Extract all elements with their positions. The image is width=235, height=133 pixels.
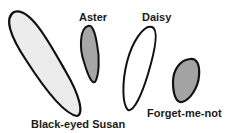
daisy-shape (123, 27, 155, 110)
black-eyed-susan-shape (9, 11, 80, 116)
forget-me-not-shape (173, 59, 199, 102)
aster-label: Aster (79, 12, 107, 23)
forget-me-not-label: Forget-me-not (147, 108, 222, 119)
black-eyed-susan-label: Black-eyed Susan (31, 119, 125, 130)
daisy-label: Daisy (142, 12, 171, 23)
aster-shape (81, 26, 99, 83)
